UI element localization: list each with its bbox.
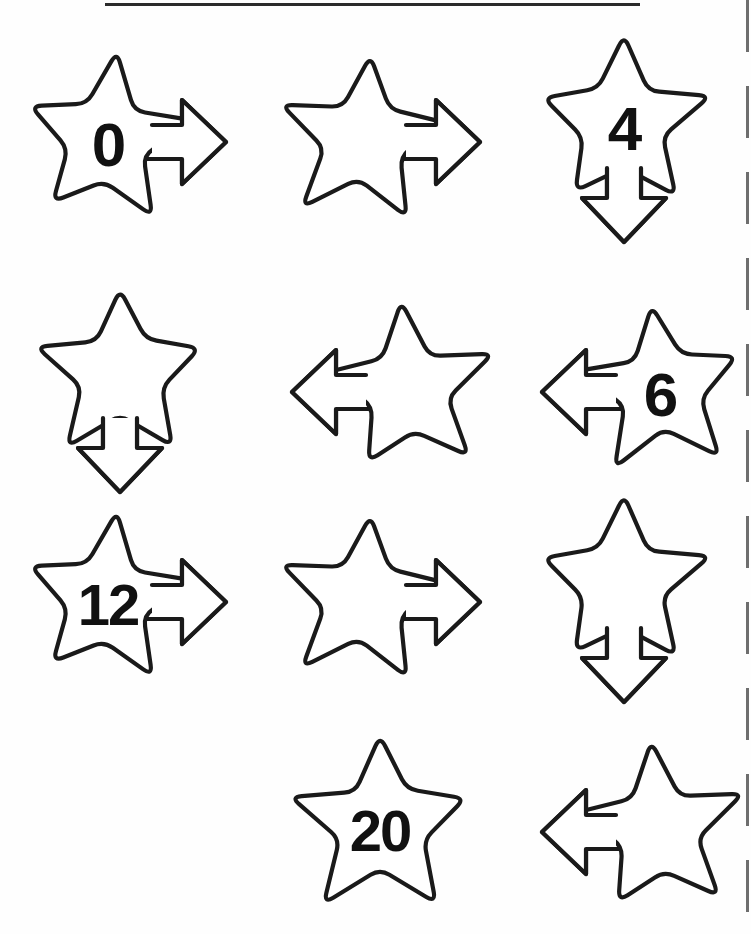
star-cell-s7[interactable]: 12 [8, 492, 258, 722]
star-cell-s10[interactable]: 20 [262, 722, 512, 934]
star-number-label: 0 [92, 110, 124, 179]
arrow-left-edge-icon [292, 350, 366, 434]
arrow-right-edge-icon [406, 560, 480, 644]
star-grid: 0461220 [0, 0, 751, 934]
star-cell-s3[interactable]: 4 [512, 32, 751, 262]
star-cell-s11[interactable] [512, 722, 751, 934]
star-shape-right [262, 492, 512, 722]
worksheet-page: 0461220 [0, 0, 751, 934]
star-cell-s2[interactable] [262, 32, 512, 262]
star-cell-s4[interactable] [8, 282, 258, 512]
star-cell-s8[interactable] [262, 492, 512, 722]
star-shape-left [262, 282, 512, 512]
star-number-label: 20 [350, 798, 411, 863]
star-shape-down: 4 [512, 32, 751, 262]
arrow-left-edge-icon [542, 350, 616, 434]
star-shape-left [512, 722, 751, 934]
arrow-right-edge-icon [152, 100, 226, 184]
star-cell-s9[interactable] [512, 492, 751, 722]
star-number-label: 12 [78, 572, 139, 637]
star-number-label: 6 [644, 360, 677, 429]
arrow-right-edge-icon [406, 100, 480, 184]
star-shape-down [8, 282, 258, 512]
star-shape-left: 6 [512, 282, 751, 512]
star-shape-right [262, 32, 512, 262]
star-cell-s6[interactable]: 6 [512, 282, 751, 512]
star-shape-down [512, 492, 751, 722]
star-shape-none: 20 [262, 722, 512, 934]
star-cell-s5[interactable] [262, 282, 512, 512]
star-shape-right: 12 [8, 492, 258, 722]
star-number-label: 4 [608, 94, 643, 163]
arrow-right-edge-icon [152, 560, 226, 644]
star-shape-right: 0 [8, 32, 258, 262]
arrow-left-edge-icon [542, 790, 616, 874]
star-cell-s1[interactable]: 0 [8, 32, 258, 262]
